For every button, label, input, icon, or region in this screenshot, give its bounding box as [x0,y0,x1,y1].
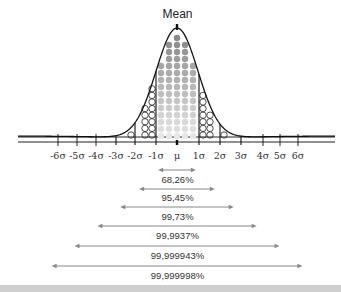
mean-marker [176,24,178,30]
filled-dot [182,70,188,76]
filled-dot [174,126,180,132]
filled-dot [158,77,164,83]
x-tick-label: 3σ [235,150,248,161]
hollow-circle [207,125,213,131]
arrowhead-left-icon [75,244,80,248]
filled-dot [174,63,180,69]
filled-dot [166,119,172,125]
filled-dot [174,133,180,139]
filled-dot [190,70,196,76]
arrowhead-left-icon [158,168,163,172]
x-tick-label: 1σ [193,150,206,161]
arrowhead-left-icon [52,264,57,268]
filled-dot [158,91,164,97]
filled-dot [174,119,180,125]
hollow-circle [200,125,206,131]
filled-dot [174,98,180,104]
filled-dot [166,133,172,139]
arrowhead-right-icon [252,224,257,228]
filled-dot [158,98,164,104]
filled-dot [166,126,172,132]
filled-dot [182,49,188,55]
filled-dot [166,77,172,83]
range-percentage-label: 99,9937% [0,230,341,241]
arrowhead-left-icon [120,205,125,209]
hollow-circle [149,119,155,125]
filled-dot [190,84,196,90]
filled-dot [158,112,164,118]
filled-dot [158,126,164,132]
range-percentage-label: 99,999943% [0,250,341,261]
hollow-circle [149,112,155,118]
arrowhead-right-icon [191,168,196,172]
mean-label: Mean [0,7,341,21]
filled-dot [158,84,164,90]
filled-dot [166,112,172,118]
filled-dot [158,70,164,76]
filled-dot [174,77,180,83]
filled-dot [174,49,180,55]
filled-dot [166,98,172,104]
filled-dot [158,105,164,111]
filled-dot [174,91,180,97]
x-tick-label: μ [174,150,180,161]
x-tick-label: 2σ [214,150,227,161]
filled-dot [182,98,188,104]
x-tick-label: 5σ [274,150,287,161]
range-percentage-label: 95,45% [0,192,341,203]
filled-dot [174,35,180,41]
hollow-circle [200,119,206,125]
arrowhead-left-icon [97,224,102,228]
filled-dot [190,105,196,111]
hollow-circle [149,125,155,131]
filled-dot [166,42,172,48]
filled-dot [182,133,188,139]
hollow-circle [149,105,155,111]
filled-dot [182,63,188,69]
hollow-circle [142,112,148,118]
hollow-circle [142,119,148,125]
filled-dot [174,70,180,76]
hollow-circle [200,105,206,111]
filled-dot [190,112,196,118]
x-tick-label: -3σ [108,150,124,161]
filled-dot [174,105,180,111]
filled-dot [158,133,164,139]
mean-tick [176,140,178,145]
hollow-circle [142,125,148,131]
filled-dot [182,91,188,97]
filled-dot [190,98,196,104]
bottom-band [0,285,341,292]
filled-dot [174,56,180,62]
filled-dot [174,112,180,118]
filled-dot [190,126,196,132]
filled-dot [190,77,196,83]
filled-dot [182,105,188,111]
filled-dot [182,112,188,118]
arrowhead-right-icon [275,244,280,248]
hollow-circle [149,99,155,105]
filled-dot [182,119,188,125]
hollow-circle [207,119,213,125]
filled-dot [166,56,172,62]
filled-dot [174,84,180,90]
filled-dot [190,91,196,97]
filled-dot [174,42,180,48]
hollow-circle [149,92,155,98]
x-tick-label: -1σ [148,150,164,161]
filled-dot [158,119,164,125]
normal-distribution-chart [0,0,341,292]
hollow-circle [200,112,206,118]
x-tick-label: -6σ [50,150,66,161]
range-percentage-label: 99,999998% [0,270,341,281]
filled-dot [166,105,172,111]
x-tick-label: 4σ [257,150,270,161]
filled-dot [166,49,172,55]
x-tick-label: 6σ [292,150,305,161]
arrowhead-right-icon [297,264,302,268]
filled-dot [166,84,172,90]
filled-dot [182,56,188,62]
filled-dot [182,126,188,132]
arrowhead-right-icon [210,187,215,191]
arrowhead-right-icon [229,205,234,209]
